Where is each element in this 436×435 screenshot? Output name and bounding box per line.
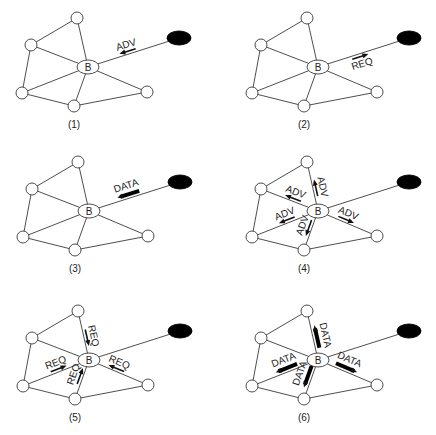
edge-left_lower-B: [252, 67, 318, 93]
sensor-node-top: [301, 305, 313, 317]
edge-bottom-right: [74, 92, 147, 106]
edge-B-sink: [318, 182, 409, 211]
message-label: ADV: [294, 213, 311, 236]
edge-top-left_upper: [261, 162, 307, 189]
sensor-node-left_upper: [25, 39, 37, 51]
sensor-node-left_lower: [17, 380, 29, 392]
edge-top-left_upper: [31, 18, 77, 45]
edge-top-left_upper: [32, 311, 78, 338]
sensor-node-top: [72, 156, 84, 168]
message-adv-sink: ADV: [114, 36, 137, 54]
message-adv-top: ADV: [313, 176, 331, 199]
edge-left_lower-bottom: [252, 386, 304, 399]
message-data-right: DATA: [336, 349, 364, 372]
message-label: REQ: [107, 353, 131, 372]
sensor-node-top: [71, 12, 83, 24]
panel-caption: (3): [69, 263, 81, 274]
sensor-node-left_lower: [246, 87, 258, 99]
panel-caption: (4): [298, 263, 310, 274]
sensor-node-bottom: [298, 100, 310, 112]
panel-6: BDATADATADATADATA(6): [246, 305, 421, 423]
sensor-node-bottom: [68, 100, 80, 112]
edge-top-left_upper: [32, 162, 78, 189]
node-b-label: B: [86, 355, 93, 366]
edge-left_upper-left_lower: [252, 45, 261, 93]
node-b-label: B: [86, 206, 93, 217]
node-b-label: B: [315, 206, 322, 217]
sensor-node-right: [142, 379, 154, 391]
node-b-label: B: [315, 62, 322, 73]
panel-4: BADVADVADVADVADV(4): [246, 156, 421, 274]
message-label: REQ: [350, 55, 374, 72]
edge-left_upper-left_lower: [23, 189, 32, 237]
sensor-node-right: [141, 86, 153, 98]
message-label: ADV: [273, 204, 296, 222]
sensor-node-left_upper: [26, 332, 38, 344]
sensor-node-left_lower: [246, 231, 258, 243]
message-label: ADV: [337, 204, 361, 222]
sensor-node-left_lower: [246, 380, 258, 392]
panel-caption: (2): [298, 119, 310, 130]
edge-bottom-right: [304, 92, 377, 106]
sensor-node-bottom: [69, 393, 81, 405]
edge-left_upper-left_lower: [23, 338, 32, 386]
message-req-left_lower: REQ: [44, 353, 68, 372]
edge-left_lower-bottom: [23, 386, 75, 399]
edge-left_lower-B: [22, 67, 88, 93]
sink-node: [168, 175, 192, 189]
message-adv-left_upper: ADV: [284, 183, 307, 201]
sensor-node-right: [371, 230, 383, 242]
panel-caption: (1): [68, 119, 80, 130]
sink-node: [167, 31, 191, 45]
edge-top-left_upper: [261, 18, 307, 45]
edge-left_upper-left_lower: [252, 189, 261, 237]
edge-left_lower-bottom: [252, 93, 304, 106]
sensor-node-top: [72, 305, 84, 317]
sensor-node-bottom: [298, 244, 310, 256]
edge-left_lower-B: [23, 211, 89, 237]
message-req-right: REQ: [107, 353, 131, 372]
edge-left_lower-bottom: [23, 237, 75, 250]
sensor-node-bottom: [298, 393, 310, 405]
arrow-head-icon: [313, 325, 318, 331]
panel-5: BREQREQREQREQ(5): [17, 305, 192, 423]
message-data-left_lower: DATA: [270, 350, 298, 373]
edge-left_lower-bottom: [22, 93, 74, 106]
message-data-top: DATA: [313, 322, 334, 349]
sink-node: [397, 324, 421, 338]
message-label: ADV: [114, 36, 137, 53]
panel-caption: (6): [298, 412, 310, 423]
sensor-node-right: [371, 379, 383, 391]
sensor-node-left_upper: [255, 39, 267, 51]
edge-left_upper-left_lower: [252, 338, 261, 386]
message-adv-bottom: ADV: [294, 213, 312, 236]
edge-bottom-right: [304, 385, 377, 399]
sink-node: [168, 324, 192, 338]
edge-bottom-right: [75, 385, 148, 399]
message-data-sink: DATA: [112, 176, 140, 198]
sink-node: [397, 31, 421, 45]
edge-top-left_upper: [261, 311, 307, 338]
panel-1: BADV(1): [16, 12, 191, 130]
edge-left_upper-left_lower: [22, 45, 31, 93]
edge-B-sink: [89, 331, 180, 360]
sensor-node-bottom: [69, 244, 81, 256]
sensor-node-right: [371, 86, 383, 98]
message-label: REQ: [64, 362, 82, 386]
message-req-sink: REQ: [350, 54, 374, 73]
sensor-node-left_upper: [255, 332, 267, 344]
spin-protocol-diagram: BADV(1)BREQ(2)BDATA(3)BADVADVADVADVADV(4…: [0, 0, 436, 435]
sensor-node-top: [301, 156, 313, 168]
sink-node: [397, 175, 421, 189]
sensor-node-right: [142, 230, 154, 242]
edge-bottom-right: [75, 236, 148, 250]
sensor-node-top: [301, 12, 313, 24]
message-label: ADV: [284, 183, 307, 201]
edge-bottom-right: [304, 236, 377, 250]
message-label: REQ: [44, 353, 68, 371]
sensor-node-left_upper: [255, 183, 267, 195]
sensor-node-left_lower: [17, 231, 29, 243]
sensor-node-left_upper: [26, 183, 38, 195]
panel-2: BREQ(2): [246, 12, 421, 130]
edge-left_lower-bottom: [252, 237, 304, 250]
